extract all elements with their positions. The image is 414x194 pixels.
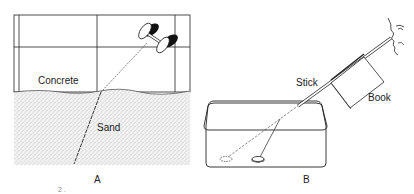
- label-concrete: Concrete: [38, 75, 79, 86]
- observer-face: [388, 18, 398, 55]
- label-sand: Sand: [97, 122, 120, 133]
- apparent-coin: [220, 157, 232, 162]
- footer-fragment: 2 .: [58, 186, 66, 193]
- figure-canvas: [0, 0, 414, 194]
- panel-a: [14, 15, 190, 165]
- caption-a: A: [94, 174, 101, 185]
- real-coin: [252, 157, 264, 162]
- label-stick: Stick: [296, 77, 318, 88]
- label-book: Book: [368, 92, 391, 103]
- caption-b: B: [303, 174, 310, 185]
